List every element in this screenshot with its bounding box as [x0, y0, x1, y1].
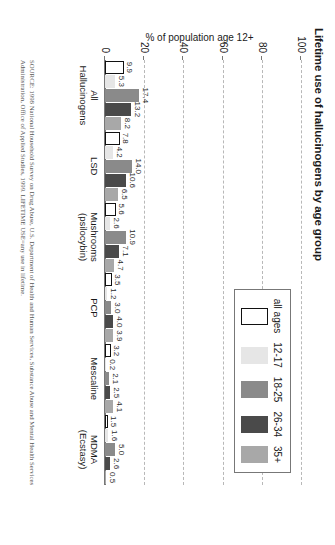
bar-value-label: 1.6 [110, 430, 119, 441]
page-title: Lifetime use of hallucinogens by age gro… [313, 28, 325, 261]
bar: 4.1 [105, 400, 113, 413]
bar: 3.9 [105, 329, 113, 342]
bar-value-label: 10.9 [128, 229, 137, 245]
bar-value-label: 7.8 [121, 133, 130, 144]
bar: 0.2 [105, 358, 106, 371]
y-tick-label: 80 [256, 42, 267, 53]
legend-swatch [241, 308, 268, 325]
bar: 4.7 [105, 259, 114, 272]
bar-value-label: 8.2 [123, 118, 132, 129]
y-axis-title: % of population age 12+ [85, 32, 315, 43]
bar: 14.0 [105, 160, 132, 173]
bar: 10.9 [105, 231, 126, 244]
bar-value-label: 1.5 [109, 416, 118, 427]
bar: 1.5 [105, 415, 108, 428]
bar-value-label: 5.6 [117, 204, 126, 215]
chart-figure: Lifetime use of hallucinogens by age gro… [0, 0, 335, 545]
bar: 2.6 [105, 217, 110, 230]
bar: 4.2 [105, 146, 113, 159]
source-note: SOURCE: 1998 National Household Survey o… [19, 60, 37, 500]
legend-label: 35+ [272, 446, 283, 463]
bar: 17.4 [105, 89, 139, 102]
bar: 3.2 [105, 344, 111, 357]
bar: 5.0 [105, 443, 115, 456]
bar-value-label: 7.1 [121, 246, 130, 257]
bar-value-label: 10.6 [128, 172, 137, 188]
bar: 3.0 [105, 301, 111, 314]
bar-value-label: 9.9 [125, 62, 134, 73]
legend-swatch [241, 416, 268, 433]
bar: 4.0 [105, 315, 113, 328]
bar: 2.5 [105, 386, 110, 399]
bar: 0.5 [105, 471, 106, 484]
bar: 10.6 [105, 174, 126, 187]
x-category-label: AllHallucinogens [78, 60, 100, 131]
bar: 1.6 [105, 429, 108, 442]
bar-value-label: 4.2 [115, 147, 124, 158]
x-category-label: Mescaline [89, 343, 100, 414]
bar: 1.2 [105, 287, 107, 300]
legend-label: 26-34 [272, 411, 283, 437]
legend-label: 12-17 [272, 342, 283, 368]
legend-item[interactable]: 12-17 [241, 342, 283, 368]
legend-label: all ages [272, 299, 283, 333]
x-category-label: Mushrooms(psilocybin) [78, 202, 100, 273]
bar-value-label: 2.6 [112, 218, 121, 229]
bar-value-label: 4.7 [116, 260, 125, 271]
x-category-label: LSD [89, 131, 100, 202]
bar-value-label: 3.2 [112, 345, 121, 356]
legend-item[interactable]: 35+ [241, 446, 283, 463]
y-tick-label: 40 [178, 42, 189, 53]
bar-value-label: 5.0 [117, 444, 126, 455]
bar-value-label: 1.2 [109, 288, 118, 299]
legend-item[interactable]: all ages [241, 299, 283, 333]
bar: 9.9 [105, 61, 124, 74]
bar-value-label: 3.0 [113, 302, 122, 313]
bar-value-label: 6.5 [120, 189, 129, 200]
bar: 5.6 [105, 203, 116, 216]
legend-item[interactable]: 26-34 [241, 411, 283, 437]
bar: 2.1 [105, 372, 109, 385]
y-tick-label: 0 [100, 47, 111, 53]
bar: 7.1 [105, 245, 119, 258]
bar-value-label: 13.2 [133, 102, 142, 118]
y-tick-label: 100 [296, 36, 307, 53]
bar: 6.5 [105, 188, 118, 201]
bar: 3.5 [105, 273, 112, 286]
bar: 5.3 [105, 75, 115, 88]
bar-value-label: 0.5 [108, 472, 117, 483]
y-tick-label: 60 [217, 42, 228, 53]
bar-value-label: 3.9 [115, 330, 124, 341]
bar-group: 7.84.214.010.66.5LSD [105, 131, 301, 202]
bar-group: 5.62.610.97.14.7Mushrooms(psilocybin) [105, 202, 301, 273]
legend-swatch [241, 446, 268, 463]
bar-value-label: 4.1 [115, 401, 124, 412]
legend-item[interactable]: 18-25 [241, 377, 283, 403]
bar-value-label: 5.3 [117, 76, 126, 87]
bar: 2.6 [105, 457, 110, 470]
rotated-figure-container: Lifetime use of hallucinogens by age gro… [0, 0, 335, 545]
bar-value-label: 3.5 [113, 274, 122, 285]
bar-value-label: 4.0 [115, 316, 124, 327]
y-tick-label: 20 [139, 42, 150, 53]
x-category-label: MDMA(Ecstasy) [78, 414, 100, 485]
bar: 8.2 [105, 117, 121, 130]
gridline: 100 [301, 60, 302, 485]
x-category-label: PCP [89, 272, 100, 343]
legend-swatch [241, 347, 268, 364]
bar: 7.8 [105, 132, 120, 145]
bar-group: 9.95.317.413.28.2AllHallucinogens [105, 60, 301, 131]
bar-value-label: 2.1 [111, 373, 120, 384]
bar-value-label: 0.2 [108, 359, 117, 370]
bar-value-label: 2.6 [112, 458, 121, 469]
legend: all ages12-1718-2526-3435+ [234, 289, 291, 473]
legend-swatch [241, 381, 268, 398]
bar: 13.2 [105, 103, 131, 116]
legend-label: 18-25 [272, 377, 283, 403]
bar-value-label: 17.4 [141, 88, 150, 104]
bar-value-label: 2.5 [112, 387, 121, 398]
plot-wrapper: % of population age 12+ 020406080100 9.9… [55, 0, 305, 545]
